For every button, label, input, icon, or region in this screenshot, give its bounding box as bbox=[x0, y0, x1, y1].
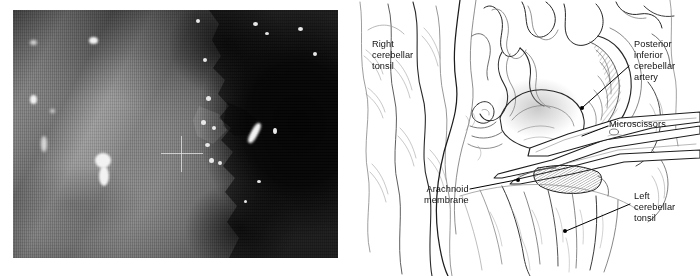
photo-bright-speck bbox=[209, 158, 214, 163]
photo-bright-speck bbox=[218, 161, 222, 165]
label-right-cerebellar-tonsil: Right cerebellar tonsil bbox=[372, 39, 413, 72]
leader-dot-pica bbox=[580, 106, 584, 110]
leader-arachnoid bbox=[470, 180, 516, 189]
photo-scanlines bbox=[13, 10, 338, 258]
photo-specular-highlight bbox=[30, 40, 37, 45]
photo-bright-speck bbox=[212, 126, 216, 130]
photo-bright-speck bbox=[203, 58, 207, 62]
photo-bright-speck bbox=[201, 120, 206, 125]
photo-bright-speck bbox=[273, 128, 277, 134]
reticle-horizontal-line bbox=[161, 153, 203, 154]
leader-dot-arachnoid bbox=[516, 178, 520, 182]
photo-bright-speck bbox=[253, 22, 258, 26]
photo-specular-highlight bbox=[99, 166, 109, 186]
reticle-vertical-line bbox=[181, 136, 182, 172]
label-microscissors: Microscissors bbox=[609, 119, 666, 130]
photo-bright-speck bbox=[206, 96, 211, 101]
photo-bright-speck bbox=[298, 27, 303, 31]
label-posterior-inferior-cerebellar-artery: Posterior inferior cerebellar artery bbox=[634, 39, 675, 83]
photo-bright-speck bbox=[205, 143, 210, 147]
photo-bright-speck bbox=[196, 19, 200, 23]
photo-bright-speck bbox=[257, 180, 261, 183]
label-left-cerebellar-tonsil: Left cerebellar tonsil bbox=[634, 191, 675, 224]
lateral-wall bbox=[636, 0, 678, 222]
figure-container: Right cerebellar tonsil Posterior inferi… bbox=[0, 0, 700, 276]
photo-specular-highlight bbox=[50, 109, 55, 113]
photo-bright-speck bbox=[265, 32, 269, 35]
intraoperative-photo-panel bbox=[13, 10, 338, 258]
photo-bright-speck bbox=[244, 200, 247, 203]
label-arachnoid-membrane: Arachnoid membrane bbox=[424, 184, 469, 206]
photo-specular-highlight bbox=[41, 136, 47, 152]
photo-specular-highlight bbox=[89, 37, 98, 44]
crosshair-reticle bbox=[161, 136, 203, 172]
leader-dot-left-tonsil bbox=[563, 229, 567, 233]
photo-bright-speck bbox=[313, 52, 317, 56]
photo-specular-highlight bbox=[30, 95, 37, 104]
left-cerebellar-tonsil-shape bbox=[460, 184, 638, 276]
